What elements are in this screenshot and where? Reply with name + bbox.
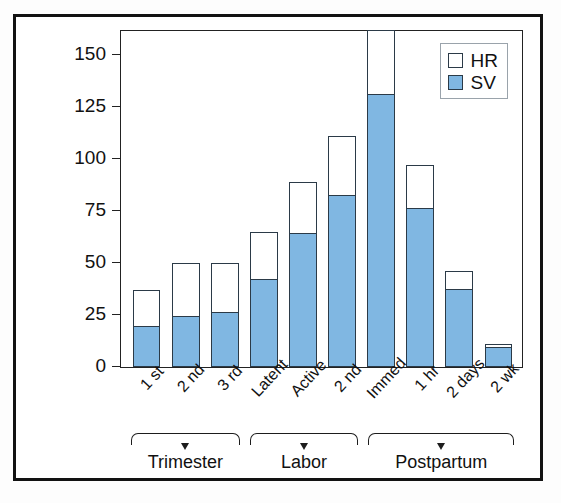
y-tick-100: 100 [112, 158, 121, 159]
group-label-trimester: Trimester [126, 452, 245, 473]
bar-segment-sv [212, 312, 238, 366]
bar-1-st[interactable] [133, 290, 161, 367]
x-label-slot: 3 rd [205, 370, 244, 432]
y-tick-25: 25 [112, 314, 121, 315]
x-label-slot: Active [283, 370, 322, 432]
group-bracket-icon [250, 433, 359, 445]
bar-segment-sv [290, 233, 316, 366]
y-tick-150: 150 [112, 54, 121, 55]
group-labor: Labor [245, 430, 364, 486]
x-axis-group-brackets: TrimesterLaborPostpartum [120, 430, 523, 486]
x-label-slot: Immed [362, 370, 401, 432]
bar-slot [362, 31, 401, 367]
bar-segment-sv [407, 208, 433, 366]
y-axis-title: Cardiac output (% change from prepregnan… [0, 0, 32, 34]
group-trimester: Trimester [126, 430, 245, 486]
y-tick-label-125: 125 [60, 96, 106, 116]
bar-2-days[interactable] [445, 271, 473, 367]
legend-label-hr: HR [471, 51, 498, 70]
y-tick-label-150: 150 [60, 44, 106, 64]
x-label-slot: 2 nd [165, 370, 204, 432]
plot-area: 0 25 50 75 100 125 150 HR [120, 30, 523, 368]
bar-slot [401, 31, 440, 367]
legend-item-hr: HR [448, 49, 498, 71]
bar-segment-sv [251, 279, 277, 366]
y-tick-75: 75 [112, 210, 121, 211]
bar-segment-sv [173, 316, 199, 366]
x-label-slot: 1 hr [401, 370, 440, 432]
bar-latent[interactable] [250, 232, 278, 367]
y-tick-label-0: 0 [60, 356, 106, 376]
x-label-slot: 2 wk [480, 370, 519, 432]
x-label-slot: 2 days [440, 370, 479, 432]
group-label-postpartum: Postpartum [363, 452, 519, 473]
bar-slot [127, 31, 166, 367]
x-label-slot: 1 st [126, 370, 165, 432]
bar-1-hr[interactable] [406, 165, 434, 367]
bar-slot [322, 31, 361, 367]
bar-slot [205, 31, 244, 367]
bar-active[interactable] [289, 182, 317, 367]
y-tick-label-75: 75 [60, 200, 106, 220]
bar-slot [283, 31, 322, 367]
x-label-slot: 2 nd [322, 370, 361, 432]
y-tick-label-100: 100 [60, 148, 106, 168]
legend-swatch-hr-icon [448, 53, 463, 68]
y-tick-label-25: 25 [60, 304, 106, 324]
bar-slot [166, 31, 205, 367]
bar-immed[interactable] [367, 30, 395, 367]
figure-container: Cardiac output (% change from prepregnan… [0, 0, 561, 503]
bar-slot [244, 31, 283, 367]
bar-3-rd[interactable] [211, 263, 239, 367]
bar-segment-sv [329, 195, 355, 366]
group-bracket-icon [368, 433, 514, 445]
group-label-labor: Labor [245, 452, 364, 473]
chart-legend: HR SV [440, 43, 508, 99]
bar-segment-sv [368, 94, 394, 366]
legend-swatch-sv-icon [448, 75, 463, 90]
bar-segment-sv [446, 289, 472, 366]
x-label-slot: Latent [244, 370, 283, 432]
x-axis-tick-labels: 1 st2 nd3 rdLatentActive2 ndImmed1 hr2 d… [120, 370, 523, 432]
bar-2-nd[interactable] [328, 136, 356, 367]
bar-2-nd[interactable] [172, 263, 200, 367]
group-postpartum: Postpartum [363, 430, 519, 486]
legend-item-sv: SV [448, 71, 498, 93]
group-bracket-icon [131, 433, 240, 445]
bar-segment-sv [134, 326, 160, 366]
y-tick-0: 0 [112, 366, 121, 367]
y-axis-title-line2: (% change from prepregnant) [13, 0, 32, 34]
legend-label-sv: SV [471, 73, 496, 92]
y-tick-label-50: 50 [60, 252, 106, 272]
y-tick-125: 125 [112, 106, 121, 107]
y-tick-50: 50 [112, 262, 121, 263]
